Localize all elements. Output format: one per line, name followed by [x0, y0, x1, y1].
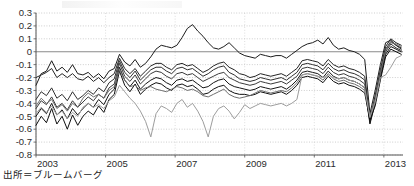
- series-line-1: [36, 25, 401, 114]
- y-tick-label: -0.1: [16, 59, 32, 70]
- y-tick-label: -0.3: [16, 85, 32, 96]
- series-line-8: [36, 56, 401, 137]
- source-note: 出所＝ブルームバーグ: [3, 167, 103, 181]
- x-tick-label: 2013: [385, 158, 406, 169]
- y-tick-label: -0.7: [16, 136, 32, 147]
- axis-lines: [34, 13, 404, 158]
- y-axis-tick-labels: 0.30.20.10-0.1-0.2-0.3-0.4-0.5-0.6-0.7-0…: [16, 7, 32, 160]
- y-tick-label: -0.8: [16, 149, 32, 160]
- line-chart-plot: 0.30.20.10-0.1-0.2-0.3-0.4-0.5-0.6-0.7-0…: [0, 0, 414, 186]
- y-tick-label: 0.2: [19, 20, 32, 31]
- y-tick-label: -0.5: [16, 111, 32, 122]
- x-tick-label: 2011: [315, 158, 335, 169]
- y-tick-label: 0: [27, 46, 32, 57]
- series-line-4: [36, 44, 401, 123]
- chart-figure: 0.30.20.10-0.1-0.2-0.3-0.4-0.5-0.6-0.7-0…: [0, 0, 414, 186]
- cropped-title-artifact: [62, 1, 182, 8]
- series-line-6: [36, 49, 401, 129]
- x-tick-label: 2005: [107, 158, 128, 169]
- series-line-5: [36, 47, 401, 124]
- x-tick-label: 2009: [246, 158, 267, 169]
- y-tick-label: -0.4: [16, 98, 32, 109]
- y-tick-label: 0.1: [19, 33, 32, 44]
- y-tick-label: 0.3: [19, 7, 32, 18]
- data-series-group: [36, 25, 401, 137]
- gridlines-group: [36, 13, 403, 155]
- x-tick-label: 2007: [176, 158, 197, 169]
- y-tick-label: -0.2: [16, 72, 32, 83]
- y-tick-label: -0.6: [16, 123, 32, 134]
